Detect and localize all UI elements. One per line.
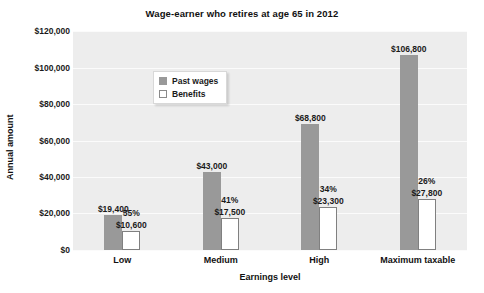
chart-title: Wage-earner who retires at age 65 in 201…: [0, 8, 484, 19]
bar-past-wages[interactable]: [400, 55, 418, 250]
bar-group: $68,800 34% $23,300: [270, 31, 369, 250]
bar-past-wages[interactable]: [301, 124, 319, 250]
legend-label: Past wages: [172, 76, 218, 86]
x-category-label-medium: Medium: [172, 255, 271, 265]
chart-legend[interactable]: Past wages Benefits: [153, 71, 227, 104]
y-tick-label: $40,000: [4, 172, 70, 182]
plot-area: $19,400 55% $10,600 $43,000 41% $17,500 …: [73, 31, 467, 250]
bar-benefits[interactable]: [221, 218, 239, 250]
bar-wrap-past: $68,800: [301, 31, 319, 250]
bar-group: $19,400 55% $10,600: [73, 31, 172, 250]
x-category-label-low: Low: [73, 255, 172, 265]
bar-wrap-past: $19,400: [104, 31, 122, 250]
bar-percent-label: 55%: [123, 208, 140, 218]
bar-group: $43,000 41% $17,500: [172, 31, 271, 250]
bar-value-label-benefit: $23,300: [313, 196, 344, 206]
bar-percent-label: 26%: [418, 176, 435, 186]
bar-wrap-past: $43,000: [203, 31, 221, 250]
y-axis-tick-labels: $120,000 $100,000 $80,000 $60,000 $40,00…: [0, 31, 70, 250]
legend-item-benefits[interactable]: Benefits: [159, 89, 218, 99]
y-tick-label: $100,000: [4, 63, 70, 73]
x-category-label-maximum-taxable: Maximum taxable: [369, 255, 468, 265]
y-tick-label: $20,000: [4, 208, 70, 218]
y-tick-label: $0: [4, 245, 70, 255]
bar-wrap-past: $106,800: [400, 31, 418, 250]
legend-swatch-icon: [159, 77, 167, 85]
x-axis-title: Earnings level: [73, 272, 467, 282]
bar-benefits[interactable]: [418, 199, 436, 250]
bar-value-label-benefit: $27,800: [411, 188, 442, 198]
legend-swatch-icon: [159, 90, 167, 98]
legend-label: Benefits: [172, 89, 206, 99]
y-tick-label: $120,000: [4, 26, 70, 36]
bar-wrap-benefit: 55% $10,600: [122, 31, 140, 250]
x-category-label-high: High: [270, 255, 369, 265]
bar-value-label-benefit: $17,500: [214, 207, 245, 217]
bar-benefits[interactable]: [122, 231, 140, 250]
bar-wrap-benefit: 26% $27,800: [418, 31, 436, 250]
bar-group: $106,800 26% $27,800: [369, 31, 468, 250]
bar-benefits[interactable]: [319, 207, 337, 250]
bar-percent-label: 41%: [221, 195, 238, 205]
legend-item-past-wages[interactable]: Past wages: [159, 76, 218, 86]
y-tick-label: $80,000: [4, 99, 70, 109]
bar-wrap-benefit: 41% $17,500: [221, 31, 239, 250]
bar-value-label-benefit: $10,600: [116, 220, 147, 230]
bar-percent-label: 34%: [320, 184, 337, 194]
bar-wrap-benefit: 34% $23,300: [319, 31, 337, 250]
y-tick-label: $60,000: [4, 136, 70, 146]
gridline: [73, 250, 467, 251]
